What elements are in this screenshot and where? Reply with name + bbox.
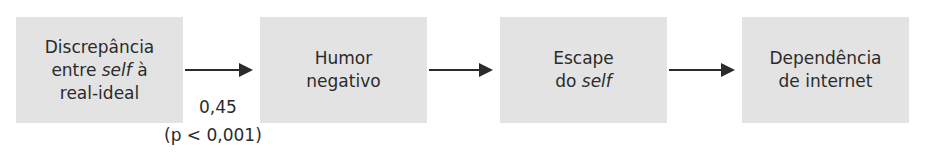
node-humor-negativo: Humor negativo (260, 17, 427, 123)
node-text: entre (51, 60, 101, 80)
node-escape-do-self: Escape do self (500, 17, 667, 123)
node-text: Escape (553, 47, 614, 70)
node-text: Discrepância (45, 36, 155, 59)
node-text: negativo (306, 70, 380, 93)
node-text-line: entre self à (45, 59, 155, 82)
arrow-1-to-2 (185, 69, 251, 71)
node-text: Dependência (769, 47, 881, 70)
node-text: Humor (306, 47, 380, 70)
node-text-line: do self (553, 70, 614, 93)
node-text: de internet (769, 70, 881, 93)
node-text: à (132, 60, 148, 80)
arrow-3-to-4 (669, 69, 733, 71)
node-text-italic: self (102, 60, 132, 80)
edge-p-value: (p < 0,001) (164, 125, 262, 145)
node-discrepancia: Discrepância entre self à real-ideal (16, 17, 183, 123)
node-dependencia-internet: Dependência de internet (742, 17, 909, 123)
arrow-2-to-3 (429, 69, 491, 71)
node-text-italic: self (582, 71, 612, 91)
node-text: do (555, 71, 582, 91)
edge-coefficient: 0,45 (199, 97, 237, 117)
node-text: real-ideal (45, 82, 155, 105)
